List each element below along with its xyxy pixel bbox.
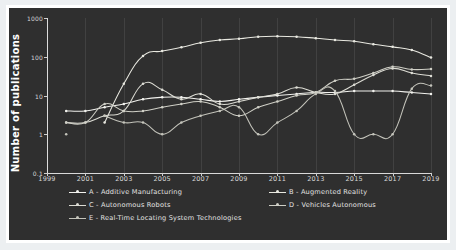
data-point (219, 110, 222, 113)
data-point (103, 115, 106, 118)
data-point (430, 93, 433, 96)
data-point (295, 35, 298, 38)
data-point (257, 133, 260, 136)
data-point (142, 55, 145, 58)
x-tick-label: 2009 (230, 175, 247, 183)
data-point (257, 106, 260, 109)
x-tick-label: 2019 (422, 175, 439, 183)
data-point (372, 72, 375, 75)
y-axis-label: Number of publications (10, 34, 21, 173)
data-point (315, 93, 318, 96)
data-point (199, 115, 202, 118)
x-tick-label: 2001 (77, 175, 94, 183)
legend-item[interactable]: D - Vehicles Autonomous (269, 201, 376, 209)
data-point (334, 90, 337, 93)
series-A (65, 90, 432, 112)
series-line-C (66, 68, 431, 123)
series-line-B (105, 36, 431, 122)
data-point (353, 133, 356, 136)
data-point (391, 66, 394, 69)
data-point (411, 87, 414, 90)
series-D (65, 66, 432, 125)
legend-label: A - Additive Manufacturing (89, 188, 182, 196)
data-point (430, 68, 433, 71)
data-point (65, 110, 68, 113)
y-tick-label: 10 (35, 92, 43, 99)
legend-item[interactable]: C - Autonomous Robots (69, 201, 171, 209)
data-point (353, 40, 356, 43)
chart-figure: Number of publications 10001001010.1 199… (0, 0, 456, 250)
data-point (257, 35, 260, 38)
series-C (65, 67, 432, 124)
data-point (353, 90, 356, 93)
data-point (295, 86, 298, 89)
data-point (372, 43, 375, 46)
data-point (161, 106, 164, 109)
legend-marker-icon (269, 189, 286, 196)
data-point (199, 41, 202, 44)
data-point (391, 133, 394, 136)
series-lines (47, 18, 431, 173)
data-point (219, 100, 222, 103)
data-point (334, 39, 337, 42)
x-tick-label: 2007 (192, 175, 209, 183)
data-point (391, 46, 394, 49)
y-tick-label: 1000 (27, 15, 43, 22)
x-tick-label: 2011 (269, 175, 286, 183)
data-point (161, 96, 164, 99)
data-point (430, 84, 433, 87)
x-tick-label: 2017 (384, 175, 401, 183)
y-tick-label: 100 (31, 53, 43, 60)
data-point (238, 100, 241, 103)
data-point (84, 121, 87, 124)
data-point (180, 121, 183, 124)
data-point (180, 98, 183, 101)
data-point (219, 106, 222, 109)
legend-marker-icon (69, 189, 86, 196)
data-point (411, 72, 414, 75)
data-point (84, 110, 87, 113)
x-tick-label: 2013 (307, 175, 324, 183)
legend-marker-icon (269, 202, 286, 209)
series-line-A (66, 91, 431, 111)
data-point (123, 121, 126, 124)
data-point (103, 121, 106, 124)
data-point (219, 103, 222, 106)
y-tick-label: 1 (39, 131, 43, 138)
legend-item[interactable]: A - Additive Manufacturing (69, 188, 182, 196)
data-point (276, 35, 279, 38)
data-point (411, 49, 414, 52)
series-B (103, 35, 432, 124)
data-point (295, 94, 298, 97)
data-point (199, 98, 202, 101)
x-tick-label: 2015 (346, 175, 363, 183)
data-point (161, 89, 164, 92)
legend-item[interactable]: B - Augmented Reality (269, 188, 367, 196)
data-point (103, 103, 106, 106)
legend-label: C - Autonomous Robots (89, 201, 171, 209)
data-point (123, 83, 126, 86)
data-point (103, 106, 106, 109)
data-point (142, 110, 145, 113)
data-point (199, 100, 202, 103)
data-point (411, 91, 414, 94)
data-point (238, 98, 241, 101)
data-point (411, 68, 414, 71)
data-point (142, 121, 145, 124)
data-point (315, 37, 318, 40)
data-point (180, 103, 183, 106)
x-tick-label: 2003 (115, 175, 132, 183)
legend-label: E - Real-Time Locating System Technologi… (89, 214, 242, 222)
chart-legend: A - Additive ManufacturingB - Augmented … (47, 188, 437, 234)
data-point (238, 106, 241, 109)
legend-marker-icon (69, 215, 86, 222)
data-point (257, 96, 260, 99)
data-point (180, 46, 183, 49)
data-point (295, 110, 298, 113)
data-point (430, 56, 433, 59)
data-point (353, 78, 356, 81)
data-point (372, 90, 375, 93)
data-point (372, 133, 375, 136)
data-point (161, 133, 164, 136)
legend-item[interactable]: E - Real-Time Locating System Technologi… (69, 214, 242, 222)
